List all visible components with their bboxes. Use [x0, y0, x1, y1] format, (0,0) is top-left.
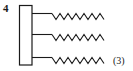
fatty-acid-chain-zigzag [52, 58, 104, 64]
backbone-rectangle [20, 6, 33, 66]
chains-group [32, 14, 104, 64]
fatty-acid-chain-zigzag [52, 35, 104, 41]
fatty-acid-chain-zigzag [52, 14, 104, 20]
chain-count-label: (3) [113, 55, 125, 67]
